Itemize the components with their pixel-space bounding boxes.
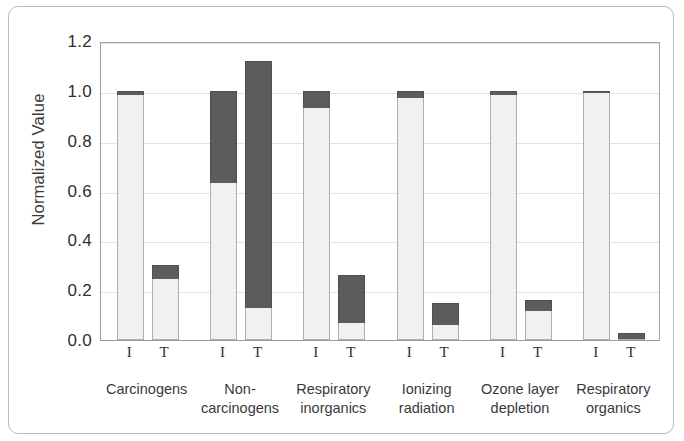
bar-i-group-5: [490, 91, 517, 340]
bar-i-group-3: [303, 91, 330, 340]
bar-segment-light: [303, 108, 330, 340]
bar-segment-light: [338, 323, 365, 340]
bar-segment-light: [245, 308, 272, 340]
bar-t-group-5: [525, 300, 552, 340]
x-axis-tick-labels: ITITITITITIT: [100, 344, 660, 368]
x-tick-label-t: T: [616, 344, 646, 361]
bar-segment-light: [117, 95, 144, 340]
bar-segment-dark: [210, 91, 237, 183]
bar-segment-light: [397, 98, 424, 340]
chart-figure: Normalized Value 0.00.20.40.60.81.01.2 I…: [0, 0, 684, 441]
bar-segment-dark: [303, 91, 330, 108]
bar-i-group-6: [583, 91, 610, 340]
bar-i-group-1: [117, 91, 144, 340]
bar-segment-dark: [245, 61, 272, 308]
bar-segment-dark: [397, 91, 424, 98]
x-tick-label-t: T: [336, 344, 366, 361]
bar-segment-light: [583, 93, 610, 340]
y-tick-label: 0.2: [48, 281, 92, 301]
bar-t-group-4: [432, 303, 459, 340]
y-tick-label: 0.4: [48, 231, 92, 251]
y-tick-label: 1.0: [48, 82, 92, 102]
bar-segment-light: [618, 339, 645, 340]
x-tick-label-i: I: [581, 344, 611, 361]
bars-layer: [101, 43, 659, 340]
group-label-line: Respiratory: [558, 380, 668, 399]
x-tick-label-i: I: [301, 344, 331, 361]
y-tick-label: 1.2: [48, 32, 92, 52]
x-tick-label-i: I: [488, 344, 518, 361]
bar-i-group-4: [397, 91, 424, 340]
bar-segment-light: [432, 325, 459, 340]
y-tick-label: 0.6: [48, 182, 92, 202]
bar-t-group-3: [338, 275, 365, 340]
x-tick-label-i: I: [394, 344, 424, 361]
x-tick-label-t: T: [243, 344, 273, 361]
y-tick-label: 0.8: [48, 132, 92, 152]
plot-area: [100, 42, 660, 341]
group-label-line: organics: [558, 399, 668, 418]
bar-segment-dark: [338, 275, 365, 322]
bar-i-group-2: [210, 91, 237, 340]
bar-t-group-2: [245, 61, 272, 340]
bar-segment-light: [210, 183, 237, 340]
x-tick-label-i: I: [208, 344, 238, 361]
x-axis-group-labels: CarcinogensNon-carcinogensRespiratoryino…: [100, 380, 660, 430]
x-tick-label-t: T: [429, 344, 459, 361]
x-tick-label-t: T: [523, 344, 553, 361]
y-tick-label: 0.0: [48, 331, 92, 351]
bar-t-group-6: [618, 333, 645, 340]
x-tick-label-i: I: [114, 344, 144, 361]
bar-segment-light: [490, 95, 517, 340]
bar-segment-dark: [432, 303, 459, 325]
x-tick-label-t: T: [149, 344, 179, 361]
bar-segment-dark: [152, 265, 179, 279]
bar-segment-dark: [525, 300, 552, 311]
y-axis-tick-labels: 0.00.20.40.60.81.01.2: [44, 0, 92, 441]
bar-t-group-1: [152, 265, 179, 340]
group-label-respiratory-organics: Respiratoryorganics: [558, 380, 668, 418]
bar-segment-light: [152, 279, 179, 340]
bar-segment-light: [525, 311, 552, 340]
